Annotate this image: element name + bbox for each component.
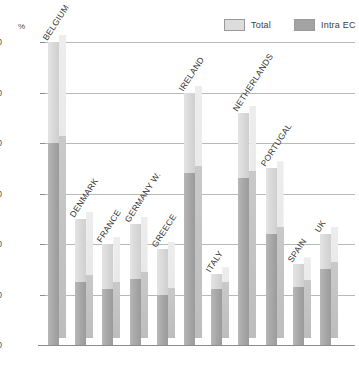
bar-group[interactable] bbox=[211, 267, 229, 345]
legend-label-total: Total bbox=[251, 20, 271, 30]
bar-segment-total bbox=[293, 264, 304, 287]
bar-group[interactable] bbox=[75, 212, 93, 345]
bar-segment-intra-ec bbox=[130, 279, 141, 345]
y-tick-mark-0 bbox=[40, 345, 45, 346]
y-tick-label-60: 60 bbox=[0, 37, 2, 47]
y-tick-label-0: 0 bbox=[0, 340, 2, 350]
gridline-60 bbox=[45, 42, 355, 43]
bar-segment-total bbox=[320, 234, 331, 269]
y-tick-mark-10 bbox=[40, 295, 45, 296]
y-tick-mark-60 bbox=[40, 42, 45, 43]
bar-segment-total bbox=[48, 42, 59, 143]
bar-side-face-intra-ec bbox=[222, 282, 229, 338]
bar-group[interactable] bbox=[184, 86, 202, 346]
bar-side-face-intra-ec bbox=[331, 262, 338, 338]
bar-segment-intra-ec bbox=[184, 173, 195, 345]
bar-segment-total bbox=[102, 244, 113, 289]
legend-label-intra-ec: Intra EC bbox=[321, 20, 356, 30]
legend-item-intra-ec: Intra EC bbox=[294, 19, 356, 31]
bar-side-face-intra-ec bbox=[277, 227, 284, 338]
bar-group[interactable] bbox=[130, 217, 148, 345]
bar-segment-total bbox=[75, 219, 86, 282]
bar-segment-intra-ec bbox=[238, 178, 249, 345]
bar-segment-total bbox=[211, 274, 222, 289]
y-tick-mark-50 bbox=[40, 93, 45, 94]
bar-segment-intra-ec bbox=[266, 234, 277, 345]
bar-group[interactable] bbox=[293, 257, 311, 345]
bar-group[interactable] bbox=[238, 106, 256, 345]
chart-container: Total Intra EC % 0102030405060 BELGIUMDE… bbox=[0, 0, 359, 378]
y-tick-label-40: 40 bbox=[0, 138, 2, 148]
bar-side-face-intra-ec bbox=[59, 136, 66, 338]
bar-segment-intra-ec bbox=[157, 295, 168, 346]
y-tick-label-20: 20 bbox=[0, 239, 2, 249]
bar-segment-total bbox=[157, 249, 168, 294]
y-tick-mark-40 bbox=[40, 143, 45, 144]
bar-segment-intra-ec bbox=[320, 269, 331, 345]
plot-area: 0102030405060 BELGIUMDENMARKFRANCEGERMAN… bbox=[45, 42, 355, 345]
bar-segment-total bbox=[266, 168, 277, 234]
bar-group[interactable] bbox=[157, 242, 175, 345]
bar-segment-intra-ec bbox=[102, 289, 113, 345]
bar-side-face-intra-ec bbox=[168, 288, 175, 339]
bar-group[interactable] bbox=[48, 35, 66, 345]
bar-segment-intra-ec bbox=[75, 282, 86, 345]
bar-segment-total bbox=[238, 113, 249, 179]
bar-side-face-intra-ec bbox=[141, 272, 148, 338]
bar-side-face-intra-ec bbox=[86, 275, 93, 338]
gridline-0 bbox=[38, 345, 355, 346]
bar-side-face-intra-ec bbox=[304, 280, 311, 338]
bar-segment-total bbox=[130, 224, 141, 280]
y-tick-mark-20 bbox=[40, 244, 45, 245]
bar-group[interactable] bbox=[102, 237, 120, 345]
legend-swatch-total-icon bbox=[224, 19, 245, 31]
category-label-germany-w: GERMANY W. bbox=[122, 170, 162, 224]
y-tick-label-10: 10 bbox=[0, 290, 2, 300]
category-label-netherlands: NETHERLANDS bbox=[231, 51, 276, 112]
y-axis-unit-label: % bbox=[18, 22, 25, 31]
bar-group[interactable] bbox=[320, 227, 338, 345]
bar-segment-intra-ec bbox=[293, 287, 304, 345]
legend-swatch-intra-ec-icon bbox=[294, 19, 315, 31]
y-tick-label-50: 50 bbox=[0, 88, 2, 98]
legend-item-total: Total bbox=[224, 19, 271, 31]
bar-segment-total bbox=[184, 93, 195, 174]
bar-group[interactable] bbox=[266, 161, 284, 345]
bar-side-face-intra-ec bbox=[113, 282, 120, 338]
bar-segment-intra-ec bbox=[48, 143, 59, 345]
bar-side-face-intra-ec bbox=[195, 166, 202, 338]
chart-legend: Total Intra EC bbox=[224, 18, 356, 32]
bar-side-face-intra-ec bbox=[249, 171, 256, 338]
y-tick-mark-30 bbox=[40, 194, 45, 195]
y-tick-label-30: 30 bbox=[0, 189, 2, 199]
bar-segment-intra-ec bbox=[211, 289, 222, 345]
